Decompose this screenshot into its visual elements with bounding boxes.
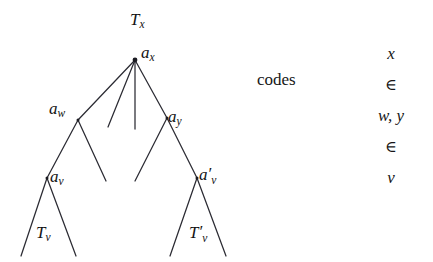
tree-edge <box>135 118 167 181</box>
label-av-base: a <box>50 167 59 186</box>
label-node-ax: ax <box>141 44 155 64</box>
figure-canvas: Tx ax aw ay av a′v Tv T′v codes x∈w, y∈v <box>0 0 433 262</box>
codes-column-row: x <box>368 38 414 69</box>
codes-column-row: v <box>368 162 414 193</box>
label-ax-base: a <box>141 43 150 62</box>
label-Tv-subscript: v <box>45 231 50 243</box>
codes-column-row: ∈ <box>368 131 414 162</box>
tree-edge <box>78 120 106 181</box>
label-node-ay: ay <box>168 108 182 128</box>
tree-edge <box>47 178 76 256</box>
tree-edge <box>21 178 47 256</box>
label-Tvp-subscript: v <box>202 232 207 244</box>
tree-edge <box>135 60 167 118</box>
codes-column-row: w, y <box>368 100 414 131</box>
label-aw-subscript: w <box>58 107 66 119</box>
label-ay-subscript: y <box>177 115 182 127</box>
label-avp-base: a <box>199 165 208 184</box>
tree-node-ax <box>133 58 138 63</box>
label-ax-subscript: x <box>150 51 155 63</box>
tree-node-av <box>46 177 49 180</box>
label-subtree-Tv: Tv <box>36 224 51 244</box>
codes-column-row: ∈ <box>368 69 414 100</box>
label-subtree-Tx: Tx <box>130 11 145 31</box>
tree-edge <box>197 178 226 256</box>
label-Tx-subscript: x <box>139 18 144 30</box>
codes-label: codes <box>257 70 296 90</box>
label-avp-subscript: v <box>211 174 216 186</box>
label-subtree-Tv-prime: T′v <box>189 223 207 244</box>
label-node-av: av <box>50 168 64 188</box>
label-node-av-prime: a′v <box>199 165 216 186</box>
codes-column: x∈w, y∈v <box>368 38 414 193</box>
tree-edge <box>78 60 135 120</box>
label-node-aw: aw <box>49 100 65 120</box>
tree-node-aw <box>77 119 80 122</box>
tree-edge <box>108 60 135 127</box>
label-av-subscript: v <box>59 175 64 187</box>
label-ay-base: a <box>168 107 177 126</box>
label-aw-base: a <box>49 99 58 118</box>
tree-edge <box>170 178 197 256</box>
